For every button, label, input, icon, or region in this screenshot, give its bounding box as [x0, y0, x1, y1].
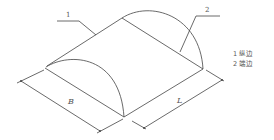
- callout-1-label: 1: [66, 11, 70, 19]
- legend: 1 纵边 2 端边: [233, 49, 253, 69]
- back-end-arc: [122, 11, 203, 69]
- ridge-line: [122, 18, 203, 69]
- longitudinal-edge-right: [124, 69, 203, 117]
- dimension-b-line: [21, 81, 100, 131]
- front-base-edge: [45, 68, 124, 117]
- callout-2-label: 2: [205, 6, 209, 14]
- dimension-b-label: B: [68, 97, 74, 106]
- dimension-l-line: [144, 80, 222, 128]
- legend-item-end-edge: 2 端边: [233, 59, 253, 69]
- legend-item-longitudinal-edge: 1 纵边: [233, 49, 253, 59]
- callout-1-leader: [57, 21, 96, 35]
- dimension-l-label: L: [177, 96, 182, 105]
- callout-2-leader: [180, 16, 220, 52]
- front-end-arc: [46, 59, 124, 117]
- vault-drawing: [0, 0, 274, 140]
